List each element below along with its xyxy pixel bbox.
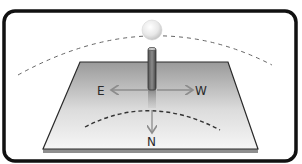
pole-top — [148, 48, 156, 51]
pole-shadow — [148, 90, 156, 108]
label-west: W — [195, 84, 207, 98]
vertical-pole — [148, 48, 156, 90]
label-north: N — [147, 135, 156, 149]
label-east: E — [97, 84, 105, 98]
sun — [142, 20, 162, 40]
sundial-diagram: E W N — [0, 0, 302, 164]
